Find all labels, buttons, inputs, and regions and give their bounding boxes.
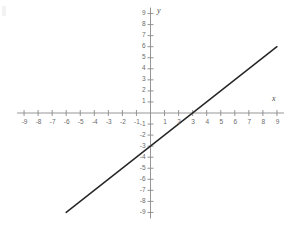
y-tick-label: 9 <box>137 10 146 17</box>
x-tick-label: 7 <box>245 119 254 126</box>
y-tick-label: 5 <box>137 54 146 61</box>
x-tick-label: -9 <box>20 119 29 126</box>
x-tick-label: 5 <box>217 119 226 126</box>
x-tick-label: -2 <box>118 119 127 126</box>
x-tick-label: -6 <box>62 119 71 126</box>
y-tick-label: 7 <box>137 32 146 39</box>
y-tick-label: -5 <box>137 165 146 172</box>
coordinate-plane-graph: -9-8-7-6-5-4-3-2-1123456789 -9-8-7-6-5-4… <box>0 0 290 231</box>
x-tick-label: 6 <box>231 119 240 126</box>
y-tick-label: 2 <box>137 87 146 94</box>
x-tick-label: 4 <box>203 119 212 126</box>
y-tick-label: 3 <box>137 76 146 83</box>
x-tick-label: 2 <box>175 119 184 126</box>
data-line-group <box>66 47 277 213</box>
y-tick-label: -9 <box>137 209 146 216</box>
y-tick-label: -1 <box>137 121 146 128</box>
data-line-0 <box>66 47 277 213</box>
x-tick-label: -8 <box>34 119 43 126</box>
y-tick-label: 1 <box>137 98 146 105</box>
x-tick-label: -3 <box>104 119 113 126</box>
x-tick-label: -7 <box>48 119 57 126</box>
x-tick-label: 9 <box>273 119 282 126</box>
x-tick-label: 3 <box>189 119 198 126</box>
axes-group <box>17 8 284 219</box>
y-tick-label: -8 <box>137 198 146 205</box>
y-tick-label: -2 <box>137 132 146 139</box>
y-tick-label: -3 <box>137 143 146 150</box>
y-tick-label: -7 <box>137 187 146 194</box>
y-tick-label: 8 <box>137 21 146 28</box>
y-tick-label: -4 <box>137 154 146 161</box>
x-tick-label: 8 <box>259 119 268 126</box>
y-tick-label: -6 <box>137 176 146 183</box>
x-tick-label: 1 <box>161 119 170 126</box>
x-axis-label: x <box>272 95 276 103</box>
y-tick-label: 6 <box>137 43 146 50</box>
y-tick-label: 4 <box>137 65 146 72</box>
x-tick-label: -4 <box>90 119 99 126</box>
x-tick-label: -5 <box>76 119 85 126</box>
y-axis-label: y <box>157 7 161 15</box>
